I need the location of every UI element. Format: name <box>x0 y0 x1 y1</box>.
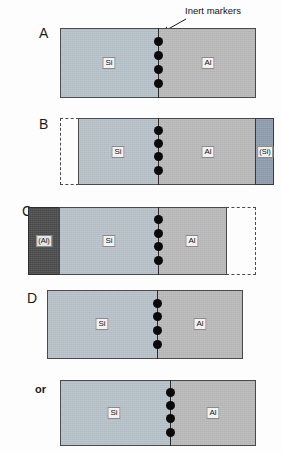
panel-d-marker-4 <box>153 340 162 349</box>
panel-d-si-label: Si <box>95 318 108 330</box>
panel-letter-d: D <box>27 291 37 305</box>
panel-c-al-label: Al <box>185 235 198 247</box>
panel-a-marker-3 <box>154 65 163 74</box>
panel-c-ghost-region-right <box>226 207 256 275</box>
panel-c-marker-2 <box>154 229 163 238</box>
panel-c-marker-3 <box>154 242 163 251</box>
panel-or-marker-4 <box>166 428 175 437</box>
panel-a-marker-4 <box>154 79 163 88</box>
panel-or-label: or <box>35 384 46 395</box>
panel-d-marker-1 <box>153 299 162 308</box>
panel-d-marker-2 <box>153 312 162 321</box>
panel-or-al-label: Al <box>206 407 219 419</box>
panel-or-marker-2 <box>166 401 175 410</box>
panel-c-si-label: Si <box>102 235 115 247</box>
panel-b-al-label: Al <box>201 146 214 158</box>
panel-a-si-label: Si <box>102 57 115 69</box>
panel-or-marker-1 <box>166 388 175 397</box>
panel-b-si-void-label: (Si) <box>257 146 273 158</box>
panel-or-marker-3 <box>166 414 175 423</box>
panel-b-marker-4 <box>154 166 163 175</box>
panel-letter-a: A <box>39 26 49 40</box>
panel-b-marker-3 <box>154 152 163 161</box>
panel-d-al-label: Al <box>193 318 206 330</box>
inert-markers-callout-label: Inert markers <box>185 6 241 16</box>
panel-b-marker-2 <box>154 139 163 148</box>
panel-b-marker-1 <box>154 126 163 135</box>
panel-b-si-label: Si <box>111 146 124 158</box>
panel-b-ghost-region-left <box>60 118 79 185</box>
panel-a-marker-2 <box>154 51 163 60</box>
panel-c-marker-1 <box>154 215 163 224</box>
panel-a-al-label: Al <box>201 57 214 69</box>
panel-d-marker-3 <box>153 326 162 335</box>
diffusion-marker-figure: Inert markers A Si Al B Si Al (Si) C <box>0 0 282 452</box>
panel-letter-b: B <box>39 117 49 131</box>
panel-c-marker-4 <box>154 256 163 265</box>
panel-c-al-void-label: (Al) <box>36 235 52 247</box>
panel-a-marker-1 <box>154 37 163 46</box>
panel-or-si-label: Si <box>107 407 120 419</box>
